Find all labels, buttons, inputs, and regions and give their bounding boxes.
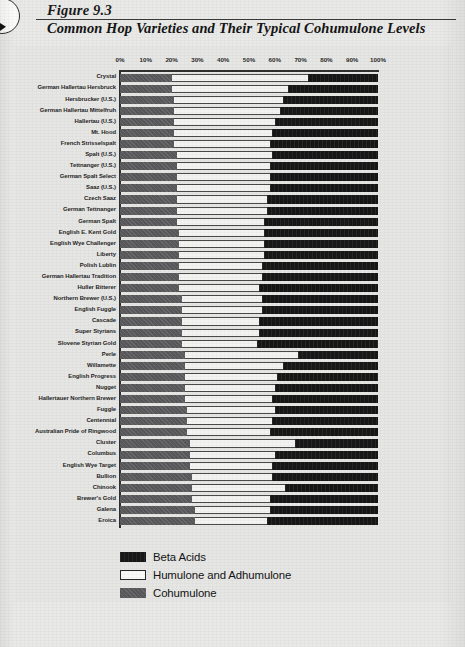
category-label: Willamette	[87, 362, 116, 368]
stacked-bar	[120, 173, 378, 181]
bar-segment-beta-acids	[264, 218, 378, 226]
stacked-bar	[120, 517, 378, 525]
bar-row: German Tettnanger	[120, 205, 378, 216]
bar-segment-humulone	[177, 195, 267, 203]
category-label: English E. Kent Gold	[59, 229, 116, 235]
bar-row: English Wye Target	[120, 460, 378, 471]
category-label: Columbus	[88, 450, 116, 456]
category-label: Mt. Hood	[91, 129, 116, 135]
bar-row: Northern Brewer (U.S.)	[120, 294, 378, 305]
bar-row: German Spalt Select	[120, 172, 378, 183]
cohumulone-swatch	[120, 588, 146, 598]
bar-segment-humulone	[185, 362, 283, 370]
bar-row: Galena	[120, 505, 378, 516]
category-label: Perle	[102, 351, 116, 357]
bar-row: Liberty	[120, 249, 378, 260]
bar-segment-humulone	[192, 484, 285, 492]
x-tick-60: 60%	[269, 56, 281, 63]
stacked-bar	[120, 284, 378, 292]
bar-segment-cohumulone	[120, 195, 177, 203]
stacked-bar	[120, 495, 378, 503]
chart-plot-area: 0%10%20%30%40%50%60%70%80%90%100% Crysta…	[120, 72, 378, 527]
bar-row: Willamette	[120, 360, 378, 371]
bar-segment-beta-acids	[272, 395, 378, 403]
stacked-bar	[120, 451, 378, 459]
bar-segment-cohumulone	[120, 74, 172, 82]
bar-row: Saaz (U.S.)	[120, 183, 378, 194]
stacked-bar	[120, 462, 378, 470]
stacked-bar	[120, 417, 378, 425]
bar-segment-beta-acids	[267, 195, 378, 203]
category-label: Saaz (U.S.)	[86, 184, 116, 190]
bar-row: Hallertauer Northern Brewer	[120, 394, 378, 405]
x-tick-80: 80%	[320, 56, 332, 63]
bar-row: German Spalt	[120, 216, 378, 227]
category-label: Tettnanger (U.S.)	[70, 162, 116, 168]
bar-segment-humulone	[174, 96, 282, 104]
bar-row: Tettnanger (U.S.)	[120, 161, 378, 172]
bar-segment-cohumulone	[120, 317, 182, 325]
stacked-bar	[120, 151, 378, 159]
bar-segment-beta-acids	[264, 229, 378, 237]
bar-segment-beta-acids	[275, 451, 378, 459]
bar-segment-beta-acids	[275, 118, 378, 126]
category-label: German Spalt Select	[60, 173, 116, 179]
stacked-bar	[120, 406, 378, 414]
bar-segment-cohumulone	[120, 251, 179, 259]
bar-row: Super Styrians	[120, 327, 378, 338]
category-label: Cascade	[92, 317, 116, 323]
bar-segment-humulone	[187, 406, 275, 414]
bar-segment-cohumulone	[120, 517, 195, 525]
bar-segment-beta-acids	[270, 506, 378, 514]
category-label: Crystal	[96, 73, 116, 79]
bar-segment-cohumulone	[120, 207, 177, 215]
bar-segment-beta-acids	[272, 462, 378, 470]
bar-segment-beta-acids	[270, 428, 378, 436]
bar-row: German Hallertau Hersbruck	[120, 83, 378, 94]
category-label: Eroica	[98, 517, 116, 523]
stacked-bar	[120, 506, 378, 514]
category-label: English Wye Target	[63, 462, 116, 468]
category-label: Hersbrucker (U.S.)	[65, 96, 116, 102]
stacked-bar	[120, 329, 378, 337]
bar-segment-humulone	[177, 173, 270, 181]
stacked-bar	[120, 273, 378, 281]
stacked-bar	[120, 207, 378, 215]
category-label: Huller Bitterer	[77, 284, 116, 290]
bar-segment-humulone	[179, 273, 262, 281]
bar-segment-beta-acids	[275, 384, 378, 392]
bar-segment-humulone	[190, 439, 296, 447]
category-label: Slovene Styrian Gold	[58, 340, 116, 346]
category-label: Chinook	[93, 484, 116, 490]
x-tick-40: 40%	[217, 56, 229, 63]
bar-segment-humulone	[182, 295, 262, 303]
stacked-bar	[120, 251, 378, 259]
bar-row: Brewer's Gold	[120, 493, 378, 504]
category-label: Fuggle	[97, 406, 116, 412]
legend-label: Humulone and Adhumulone	[153, 569, 291, 581]
bar-segment-humulone	[185, 373, 278, 381]
legend-label: Cohumulone	[153, 587, 217, 599]
bar-segment-cohumulone	[120, 118, 174, 126]
bar-segment-humulone	[172, 85, 288, 93]
bar-segment-beta-acids	[270, 140, 378, 148]
bar-segment-humulone	[195, 506, 270, 514]
figure-title: Common Hop Varieties and Their Typical C…	[47, 20, 425, 37]
bar-segment-cohumulone	[120, 85, 172, 93]
bar-segment-humulone	[174, 118, 275, 126]
stacked-bar	[120, 184, 378, 192]
bar-segment-cohumulone	[120, 417, 187, 425]
bar-segment-beta-acids	[272, 417, 378, 425]
bar-segment-beta-acids	[277, 373, 378, 381]
stacked-bar	[120, 107, 378, 115]
x-tick-100: 100%	[370, 56, 386, 63]
legend-item: Cohumulone	[120, 584, 291, 601]
bar-segment-beta-acids	[259, 317, 378, 325]
category-label: Liberty	[97, 251, 116, 257]
bar-segment-cohumulone	[120, 362, 185, 370]
bar-segment-humulone	[177, 162, 270, 170]
bar-segment-humulone	[179, 240, 264, 248]
stacked-bar	[120, 362, 378, 370]
bar-segment-cohumulone	[120, 373, 185, 381]
legend-item: Humulone and Adhumulone	[120, 566, 291, 583]
